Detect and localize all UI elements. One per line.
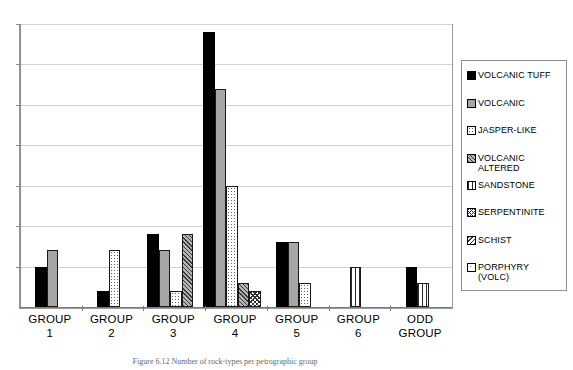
bar — [350, 267, 362, 307]
x-axis-label-line: GROUP — [328, 312, 390, 326]
x-axis-label: ODDGROUP — [389, 312, 451, 340]
x-axis-label: GROUP5 — [266, 312, 328, 340]
x-axis — [20, 307, 452, 308]
x-axis-label-line: 3 — [142, 326, 204, 340]
x-axis-tick — [143, 306, 144, 311]
legend-item-label: JASPER-LIKE — [478, 125, 537, 135]
x-axis-label-line: GROUP — [142, 312, 204, 326]
legend-item-label: VOLCANIC — [478, 98, 525, 108]
x-axis-tick — [390, 306, 391, 311]
legend-item[interactable]: SCHIST — [467, 235, 567, 245]
x-axis-label-line: GROUP — [266, 312, 328, 326]
legend-item-label: VOLCANIC TUFF — [478, 70, 551, 80]
bar — [215, 89, 227, 307]
legend-item[interactable]: SERPENTINITE — [467, 207, 567, 217]
x-axis-label-line: ODD — [389, 312, 451, 326]
bar — [35, 267, 47, 307]
figure-container: GROUP1GROUP2GROUP3GROUP4GROUP5GROUP6ODDG… — [0, 0, 573, 370]
bar — [238, 283, 250, 307]
x-axis-label-line: 1 — [19, 326, 81, 340]
x-axis-label-line: 4 — [204, 326, 266, 340]
legend-item-label: SCHIST — [478, 235, 512, 245]
legend-item-label: SERPENTINITE — [478, 207, 545, 217]
bar — [182, 234, 194, 307]
bars-layer — [20, 25, 452, 307]
legend-item[interactable]: JASPER-LIKE — [467, 125, 567, 135]
legend-item-label: PORPHYRY (VOLC) — [478, 262, 529, 282]
legend-item[interactable]: VOLCANIC TUFF — [467, 70, 567, 80]
bar — [276, 242, 288, 307]
bar — [97, 291, 109, 307]
bar — [226, 186, 238, 307]
legend-item-label: VOLCANIC ALTERED — [478, 153, 525, 173]
legend-swatch-icon — [467, 208, 476, 217]
x-axis-labels: GROUP1GROUP2GROUP3GROUP4GROUP5GROUP6ODDG… — [19, 312, 453, 348]
x-axis-label-line: 6 — [328, 326, 390, 340]
legend-item[interactable]: SANDSTONE — [467, 180, 567, 190]
legend-swatch-icon — [467, 236, 476, 245]
legend-item-label: SANDSTONE — [478, 180, 535, 190]
x-axis-tick — [267, 306, 268, 311]
legend-swatch-icon — [467, 71, 476, 80]
x-axis-label-line: GROUP — [389, 326, 451, 340]
x-axis-label-line: 2 — [81, 326, 143, 340]
bar — [299, 283, 311, 307]
legend-swatch-icon — [467, 263, 476, 272]
bar — [109, 250, 121, 307]
x-axis-tick — [329, 306, 330, 311]
bar — [249, 291, 261, 307]
bar — [170, 291, 182, 307]
legend: VOLCANIC TUFFVOLCANICJASPER-LIKEVOLCANIC… — [461, 60, 567, 291]
bar — [147, 234, 159, 307]
x-axis-label-line: GROUP — [204, 312, 266, 326]
legend-item[interactable]: VOLCANIC — [467, 98, 567, 108]
x-axis-label: GROUP1 — [19, 312, 81, 340]
x-axis-label: GROUP4 — [204, 312, 266, 340]
plot-area — [19, 24, 453, 309]
figure-caption: Figure 6.12 Number of rock-types per pet… — [0, 357, 450, 366]
legend-swatch-icon — [467, 99, 476, 108]
legend-item[interactable]: VOLCANIC ALTERED — [467, 153, 567, 173]
legend-swatch-icon — [467, 154, 476, 163]
x-axis-label-line: 5 — [266, 326, 328, 340]
x-axis-tick — [82, 306, 83, 311]
bar — [203, 32, 215, 307]
bar — [159, 250, 171, 307]
x-axis-label-line: GROUP — [19, 312, 81, 326]
legend-swatch-icon — [467, 181, 476, 190]
legend-item[interactable]: PORPHYRY (VOLC) — [467, 262, 567, 282]
legend-swatch-icon — [467, 126, 476, 135]
x-axis-tick — [205, 306, 206, 311]
x-axis-label: GROUP6 — [328, 312, 390, 340]
x-axis-label: GROUP3 — [142, 312, 204, 340]
x-axis-label: GROUP2 — [81, 312, 143, 340]
bar — [406, 267, 418, 307]
x-axis-label-line: GROUP — [81, 312, 143, 326]
bar — [47, 250, 59, 307]
bar — [288, 242, 300, 307]
bar — [417, 283, 429, 307]
